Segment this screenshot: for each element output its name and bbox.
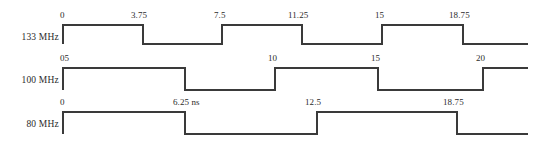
time-tick-label: 05	[60, 53, 69, 63]
time-tick-label: 12.5	[305, 97, 321, 107]
time-tick-label: 3.75	[131, 10, 147, 20]
signal-name-label: 80 MHz	[14, 119, 59, 129]
time-tick-label: 15	[375, 10, 384, 20]
time-tick-label: 6.25 ns	[173, 97, 200, 107]
time-tick-label: 7.5	[214, 10, 226, 20]
signal-waveform	[63, 112, 528, 134]
time-tick-label: 18.75	[443, 97, 464, 107]
signal-waveform	[63, 25, 528, 44]
waveform-canvas	[0, 0, 533, 143]
signal-name-label: 133 MHz	[14, 32, 59, 42]
time-tick-label: 0	[60, 97, 65, 107]
time-tick-label: 18.75	[449, 10, 470, 20]
time-tick-label: 0	[60, 10, 65, 20]
signal-waveform	[63, 68, 528, 90]
time-tick-label: 10	[268, 53, 277, 63]
time-tick-label: 15	[371, 53, 380, 63]
time-tick-label: 11.25	[288, 10, 308, 20]
time-tick-label: 20	[476, 53, 485, 63]
signal-name-label: 100 MHz	[14, 75, 59, 85]
timing-diagram: 133 MHz03.757.511.251518.75100 MHz051015…	[0, 0, 533, 143]
